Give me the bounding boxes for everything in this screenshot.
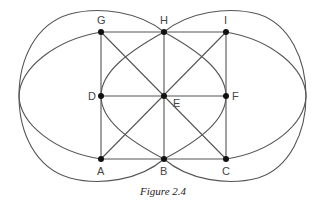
point-A [98, 156, 104, 162]
label-C: C [222, 165, 230, 177]
point-C [223, 156, 229, 162]
point-D [98, 93, 104, 99]
figure-2-4-diagram: G H I D E F A B C Figure 2.4 [0, 0, 323, 201]
point-G [98, 29, 104, 35]
label-H: H [160, 14, 168, 26]
label-E: E [173, 97, 180, 109]
label-I: I [224, 14, 227, 26]
label-F: F [232, 90, 239, 102]
label-G: G [97, 14, 106, 26]
point-F [223, 93, 229, 99]
point-I [223, 29, 229, 35]
point-B [161, 156, 167, 162]
label-B: B [160, 165, 167, 177]
label-D: D [88, 90, 96, 102]
point-E [161, 93, 167, 99]
label-A: A [97, 165, 105, 177]
point-H [161, 29, 167, 35]
figure-caption: Figure 2.4 [139, 185, 187, 197]
